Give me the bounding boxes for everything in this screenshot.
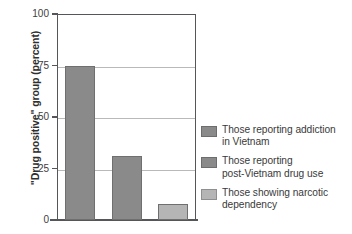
y-tick-label-100: 100 [9,9,49,19]
y-tick-label-0: 0 [9,215,49,225]
y-tick-mark-25 [52,168,58,169]
legend-swatch-3 [201,189,217,200]
bar-3 [158,204,188,220]
legend-label-3: Those showing narcoticdependency [222,187,328,211]
legend-label-line2: in Vietnam [222,136,336,148]
legend-item-3: Those showing narcoticdependency [201,187,352,211]
chart-legend: Those reporting addictionin VietnamThose… [201,124,352,218]
legend-item-1: Those reporting addictionin Vietnam [201,124,352,148]
y-axis-title: "Drug positive" group (percent) [29,3,41,213]
y-tick-mark-0 [52,219,58,220]
bar-1 [65,66,95,221]
y-tick-mark-50 [52,116,58,117]
legend-label-line1: Those showing narcotic [222,187,328,199]
legend-label-line2: post-Vietnam drug use [222,168,323,180]
y-tick-label-75: 75 [9,61,49,71]
y-tick-mark-100 [52,13,58,14]
bar-2 [112,156,142,220]
y-tick-mark-75 [52,65,58,66]
bar-chart-figure: "Drug positive" group (percent) 02550751… [0,0,352,234]
legend-item-2: Those reportingpost-Vietnam drug use [201,155,352,179]
legend-label-line1: Those reporting [222,155,323,167]
legend-label-line1: Those reporting addiction [222,124,336,136]
legend-label-1: Those reporting addictionin Vietnam [222,124,336,148]
legend-label-line2: dependency [222,199,328,211]
legend-label-2: Those reportingpost-Vietnam drug use [222,155,323,179]
y-tick-label-25: 25 [9,164,49,174]
legend-swatch-1 [201,126,217,137]
y-tick-label-50: 50 [9,112,49,122]
legend-swatch-2 [201,157,217,168]
